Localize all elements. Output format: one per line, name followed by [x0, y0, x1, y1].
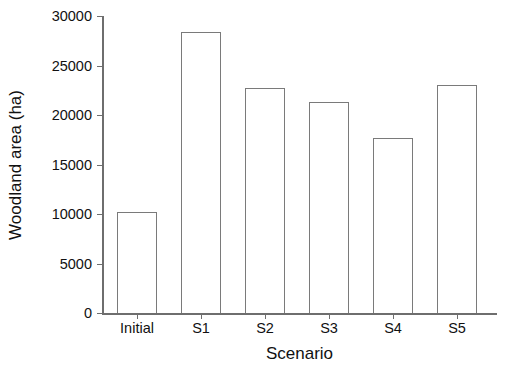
y-axis-line — [102, 16, 104, 313]
x-axis-tick — [457, 314, 458, 319]
y-axis-tick-label: 5000 — [30, 257, 92, 271]
bar — [181, 32, 221, 313]
x-axis-tick — [329, 314, 330, 319]
bar-chart-figure: Woodland area (ha) 050001000015000200002… — [0, 0, 507, 372]
x-axis-tick-label: S5 — [448, 320, 466, 336]
x-axis-line — [102, 313, 497, 315]
y-axis-tick — [97, 115, 102, 116]
bar — [117, 212, 157, 313]
bar — [245, 88, 285, 313]
x-axis-tick-label: S2 — [256, 320, 274, 336]
y-axis-tick — [97, 313, 102, 314]
bar — [373, 138, 413, 313]
y-axis-tick-label: 15000 — [30, 158, 92, 172]
plot-area — [102, 16, 497, 313]
x-axis-title: Scenario — [102, 344, 497, 364]
y-axis-title: Woodland area (ha) — [0, 0, 32, 330]
y-axis-tick-label: 10000 — [30, 207, 92, 221]
x-axis-tick-labels: InitialS1S2S3S4S5 — [102, 320, 497, 342]
x-axis-tick — [265, 314, 266, 319]
bar — [309, 102, 349, 313]
x-axis-tick — [201, 314, 202, 319]
y-axis-tick — [97, 16, 102, 17]
x-axis-tick — [393, 314, 394, 319]
y-axis-tick-label: 0 — [30, 306, 92, 320]
y-axis-tick — [97, 165, 102, 166]
y-axis-tick-label: 20000 — [30, 108, 92, 122]
y-axis-tick-label: 30000 — [30, 9, 92, 23]
x-axis-tick — [137, 314, 138, 319]
y-axis-tick-labels: 050001000015000200002500030000 — [30, 0, 92, 330]
y-axis-tick — [97, 264, 102, 265]
y-axis-tick — [97, 66, 102, 67]
y-axis-title-text: Woodland area (ha) — [6, 90, 26, 240]
y-axis-tick-label: 25000 — [30, 59, 92, 73]
x-axis-tick-label: Initial — [120, 320, 154, 336]
bar — [437, 85, 477, 313]
x-axis-tick-label: S1 — [192, 320, 210, 336]
x-axis-tick-label: S3 — [320, 320, 338, 336]
y-axis-tick — [97, 214, 102, 215]
x-axis-tick-label: S4 — [384, 320, 402, 336]
